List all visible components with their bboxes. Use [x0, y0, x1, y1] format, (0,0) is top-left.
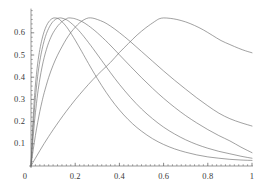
plot-canvas: [0, 0, 268, 187]
y-tick-label: 0.6: [0, 28, 25, 37]
y-tick-label: 0.1: [0, 139, 25, 148]
series-line-curve-2: [31, 18, 252, 166]
y-tick-label: 0.3: [0, 95, 25, 104]
series-line-curve-5: [31, 18, 252, 166]
x-tick-label: 0.2: [60, 172, 90, 181]
series-line-curve-4: [31, 18, 252, 166]
x-tick-label: 0.4: [104, 172, 134, 181]
y-tick-label: 0.5: [0, 51, 25, 60]
plot-figure: 0.10.20.30.40.50.6 0.20.40.60.81 0: [0, 0, 268, 187]
series-line-curve-3: [31, 18, 252, 166]
axes-group: [29, 9, 253, 168]
x-tick-label: 0.8: [193, 172, 223, 181]
series-line-curve-1: [31, 18, 252, 166]
y-tick-label: 0.4: [0, 73, 25, 82]
x-tick-label: 1: [237, 172, 267, 181]
x-tick-label: 0.6: [149, 172, 179, 181]
origin-zero-label: 0: [18, 172, 32, 181]
curves-group: [31, 18, 252, 166]
y-tick-label: 0.2: [0, 117, 25, 126]
